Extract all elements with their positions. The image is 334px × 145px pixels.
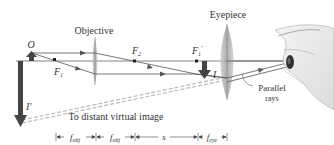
eyepiece-label: Eyepiece bbox=[210, 9, 247, 20]
focal-points bbox=[53, 58, 198, 63]
microscope-diagram: Objective Eyepiece O I bbox=[0, 0, 334, 145]
objective-label: Objective bbox=[75, 25, 114, 36]
virtual-image-label: To distant virtual image bbox=[68, 111, 164, 122]
object-label: O bbox=[27, 39, 34, 50]
parallel-rays-label-2: rays bbox=[265, 94, 278, 103]
f1-prime-label: F1′ bbox=[191, 44, 203, 57]
final-image-label: I′ bbox=[25, 101, 32, 112]
objective-lens bbox=[93, 37, 98, 85]
dimension-s: s bbox=[162, 132, 166, 142]
eye-illustration bbox=[275, 25, 334, 110]
dimension-fobj-2: fobj bbox=[110, 132, 121, 143]
object-arrow bbox=[26, 51, 37, 61]
f2-label: F2 bbox=[131, 45, 141, 57]
parallel-rays-label: Parallel bbox=[258, 83, 286, 93]
dimension-fobj-1: fobj bbox=[70, 132, 81, 143]
rays bbox=[32, 53, 287, 82]
dimension-bar bbox=[56, 133, 227, 141]
final-image-arrow bbox=[14, 61, 27, 127]
intermediate-image-arrow bbox=[198, 61, 211, 79]
image-label: I bbox=[212, 69, 217, 80]
eyepiece-lens bbox=[221, 24, 234, 100]
dimension-feye: feye bbox=[207, 132, 218, 143]
f1-label: F1 bbox=[53, 66, 63, 78]
